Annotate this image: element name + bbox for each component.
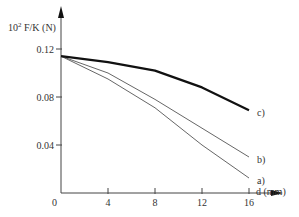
x-axis-label: d (mm) [256,186,286,198]
series-label: b) [257,154,265,166]
series-label: c) [257,107,265,119]
y-tick-label: 0.04 [37,140,55,151]
origin-label: 0 [52,197,57,208]
series-line-a [61,56,249,178]
y-axis-arrow-icon [58,6,64,18]
series-label: a) [257,175,265,187]
y-axis-label: 102 F/K (N) [8,21,56,34]
x-tick-label: 12 [197,197,207,208]
series-line-c [61,56,249,110]
x-tick-label: 8 [153,197,158,208]
y-tick-label: 0.08 [37,92,55,103]
y-tick-label: 0.12 [37,44,55,55]
x-tick-label: 4 [106,197,111,208]
data-lines: a)b)c) [61,56,265,187]
x-tick-label: 16 [244,197,254,208]
line-chart: 102 F/K (N) d (mm) 0 4812160.040.080.12 … [0,0,299,217]
